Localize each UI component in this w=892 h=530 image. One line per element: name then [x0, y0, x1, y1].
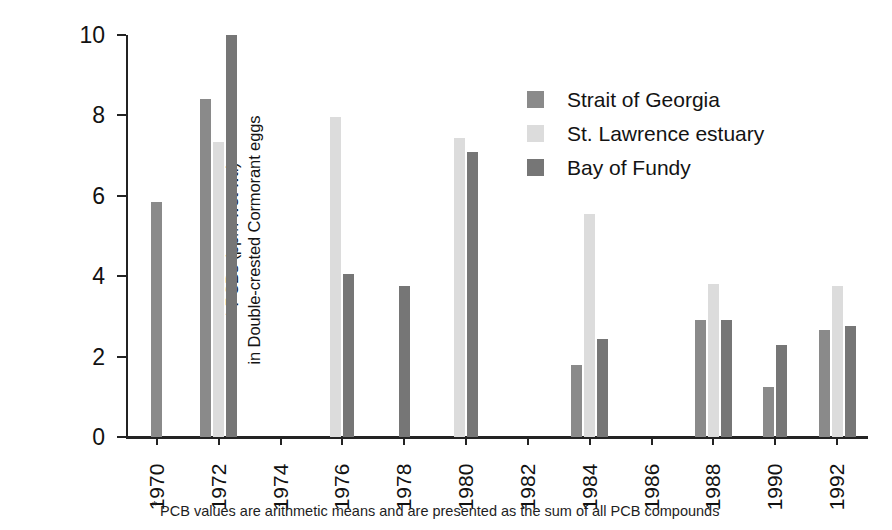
bar: [695, 320, 706, 437]
bar-group: [435, 35, 497, 437]
y-axis-tick-label: 10: [79, 24, 105, 47]
y-axis-tick-label: 4: [92, 265, 105, 288]
bar: [832, 286, 843, 437]
bar: [571, 365, 582, 437]
bar: [454, 138, 465, 437]
pcb-bar-chart-figure: * PCBs (ppm wet wt.) in Double-crested C…: [0, 0, 892, 530]
bar-group: [806, 35, 868, 437]
bar: [776, 345, 787, 437]
x-axis-tick: [712, 437, 714, 445]
footnote-text: PCB values are arithmetic means and are …: [160, 503, 719, 519]
x-axis-tick: [156, 437, 158, 445]
legend-item-st-lawrence-estuary: St. Lawrence estuary: [527, 118, 764, 149]
x-axis-tick-label: 1992: [825, 447, 849, 527]
bar: [330, 117, 341, 437]
bar: [708, 284, 719, 437]
x-axis-tick-label: 1990: [763, 447, 787, 527]
bar: [343, 274, 354, 437]
x-axis-tick: [589, 437, 591, 445]
bar: [819, 330, 830, 437]
bar: [213, 142, 224, 437]
x-axis-tick: [341, 437, 343, 445]
legend-label: St. Lawrence estuary: [567, 122, 764, 146]
chart-footnote: *PCB values are arithmetic means and are…: [152, 498, 719, 519]
x-axis-tick: [218, 437, 220, 445]
y-axis-tick: 8: [117, 114, 126, 116]
bar: [467, 152, 478, 437]
legend-swatch-icon: [527, 125, 544, 142]
y-axis-tick: 6: [117, 195, 126, 197]
y-axis-tick: 2: [117, 356, 126, 358]
x-axis-tick: [527, 437, 529, 445]
legend-item-strait-of-georgia: Strait of Georgia: [527, 84, 764, 115]
bar: [845, 326, 856, 437]
bar: [226, 35, 237, 437]
bar: [584, 214, 595, 437]
y-axis-tick-label: 8: [92, 104, 105, 127]
x-axis-tick: [280, 437, 282, 445]
bar: [597, 339, 608, 437]
chart-legend: Strait of Georgia St. Lawrence estuary B…: [527, 84, 764, 186]
legend-swatch-icon: [527, 159, 544, 176]
bar: [721, 320, 732, 437]
x-axis-tick: [403, 437, 405, 445]
y-axis-tick: 4: [117, 275, 126, 277]
bar-group: [250, 35, 312, 437]
y-axis-tick-label: 0: [92, 426, 105, 449]
bar: [151, 202, 162, 437]
y-axis-title: * PCBs (ppm wet wt.) in Double-crested C…: [12, 40, 68, 440]
bar-group: [312, 35, 374, 437]
x-axis-tick: [465, 437, 467, 445]
bar-group: [126, 35, 188, 437]
legend-label: Bay of Fundy: [567, 156, 691, 180]
x-axis-tick: [651, 437, 653, 445]
bar: [763, 387, 774, 437]
bar: [399, 286, 410, 437]
legend-swatch-icon: [527, 91, 544, 108]
legend-label: Strait of Georgia: [567, 88, 720, 112]
x-axis-tick: [836, 437, 838, 445]
x-axis-tick: [774, 437, 776, 445]
footnote-asterisk-marker: *: [152, 498, 157, 513]
bar: [200, 99, 211, 437]
bar-group: [373, 35, 435, 437]
y-axis-tick: 0: [117, 436, 126, 438]
y-axis-tick-label: 2: [92, 345, 105, 368]
y-axis-tick-label: 6: [92, 184, 105, 207]
bar-group: [188, 35, 250, 437]
legend-item-bay-of-fundy: Bay of Fundy: [527, 152, 764, 183]
y-axis-tick: 10: [117, 34, 126, 36]
